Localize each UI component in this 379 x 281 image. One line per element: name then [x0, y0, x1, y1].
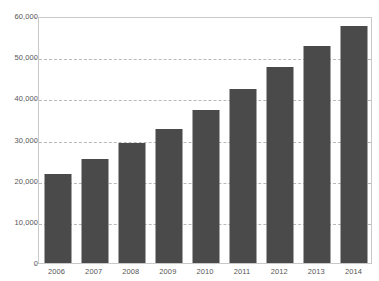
- x-tick-label: 2007: [75, 268, 112, 276]
- bar[interactable]: [304, 46, 331, 263]
- bar[interactable]: [44, 174, 71, 263]
- bars-layer: [39, 18, 371, 263]
- y-tick-label: 40,000: [2, 95, 38, 103]
- y-tick-label: 60,000: [2, 13, 38, 21]
- bar-slot: [113, 18, 150, 263]
- bar[interactable]: [192, 110, 219, 263]
- bar-chart: 010,00020,00030,00040,00050,00060,000 20…: [0, 0, 379, 281]
- y-tick-label: 30,000: [2, 137, 38, 145]
- bar[interactable]: [267, 67, 294, 263]
- bar-slot: [262, 18, 299, 263]
- bar[interactable]: [118, 143, 145, 263]
- y-tick-label: 50,000: [2, 54, 38, 62]
- bar-slot: [299, 18, 336, 263]
- y-tick-label: 0: [2, 260, 38, 268]
- bar-slot: [187, 18, 224, 263]
- x-tick-label: 2008: [112, 268, 149, 276]
- bar-slot: [336, 18, 372, 263]
- bar[interactable]: [341, 26, 368, 263]
- x-tick-label: 2013: [298, 268, 335, 276]
- bar[interactable]: [155, 129, 182, 263]
- x-tick-label: 2010: [186, 268, 223, 276]
- x-tick-label: 2009: [149, 268, 186, 276]
- x-tick-label: 2006: [38, 268, 75, 276]
- x-tick-label: 2011: [224, 268, 261, 276]
- y-tick-label: 20,000: [2, 178, 38, 186]
- bar-slot: [150, 18, 187, 263]
- bar-slot: [225, 18, 262, 263]
- y-tick-label: 10,000: [2, 219, 38, 227]
- bar-slot: [39, 18, 76, 263]
- y-tick-mark: [35, 264, 38, 265]
- plot-area: [38, 17, 372, 264]
- bar[interactable]: [81, 159, 108, 263]
- bar-slot: [76, 18, 113, 263]
- x-tick-label: 2012: [261, 268, 298, 276]
- x-tick-label: 2014: [335, 268, 372, 276]
- bar[interactable]: [230, 89, 257, 263]
